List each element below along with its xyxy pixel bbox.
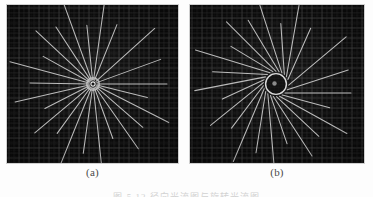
figure-caption: 图 5.12 径向光流图与旋转光流图 <box>0 188 373 197</box>
radial-flow-diagram-a <box>7 5 178 163</box>
panel-b-sublabel: (b) <box>190 166 364 178</box>
rotational-flow-diagram-b <box>190 5 364 163</box>
figure-root: (a) (b) 图 5.12 径向光流图与旋转光流图 <box>0 0 373 197</box>
figure-panel-a <box>7 5 178 163</box>
panel-a-sublabel: (a) <box>7 166 178 178</box>
figure-panel-b <box>190 5 364 163</box>
